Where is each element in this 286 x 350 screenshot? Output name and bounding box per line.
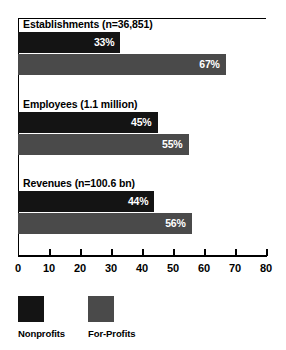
x-axis-tick	[173, 249, 175, 256]
chart-legend: NonprofitsFor-Profits	[18, 296, 268, 346]
bar-group-label: Revenues (n=100.6 bn)	[18, 177, 268, 190]
x-axis-tick-label: 80	[254, 261, 278, 275]
bar-value-label: 67%	[199, 59, 219, 70]
bar-value-label: 45%	[131, 117, 151, 128]
x-axis-tick-label: 0	[6, 261, 30, 275]
bar-row: 55%	[18, 134, 268, 155]
x-axis-tick-label: 70	[223, 261, 247, 275]
x-axis-tick	[204, 249, 206, 256]
bar-group-label: Employees (1.1 million)	[18, 98, 268, 111]
bar-for-profits: 56%	[18, 213, 192, 234]
bar-value-label: 33%	[94, 37, 114, 48]
x-axis-tick-label: 20	[68, 261, 92, 275]
bar-row: 44%	[18, 191, 268, 212]
bar-nonprofits: 45%	[18, 112, 158, 133]
bar-row: 45%	[18, 112, 268, 133]
legend-item: Nonprofits	[18, 296, 65, 339]
bar-row: 33%	[18, 32, 268, 53]
bar-group: Employees (1.1 million)45%55%	[18, 98, 268, 155]
x-axis-tick	[80, 249, 82, 256]
legend-label: For-Profits	[88, 328, 135, 339]
bar-nonprofits: 33%	[18, 32, 120, 53]
legend-swatch	[18, 296, 44, 322]
x-axis-tick	[49, 249, 51, 256]
legend-item: For-Profits	[88, 296, 135, 339]
x-axis-tick	[266, 249, 268, 256]
bar-nonprofits: 44%	[18, 191, 154, 212]
legend-label: Nonprofits	[18, 328, 65, 339]
bar-row: 67%	[18, 54, 268, 75]
x-axis-tick-label: 10	[37, 261, 61, 275]
legend-swatch	[88, 296, 114, 322]
x-axis-tick-label: 50	[161, 261, 185, 275]
bar-group-label: Establishments (n=36,851)	[18, 18, 268, 31]
bar-chart: Establishments (n=36,851)33%67%Employees…	[0, 0, 286, 350]
bar-group: Revenues (n=100.6 bn)44%56%	[18, 177, 268, 234]
bar-value-label: 44%	[128, 196, 148, 207]
bar-value-label: 55%	[162, 139, 182, 150]
bar-row: 56%	[18, 213, 268, 234]
x-axis-tick-label: 60	[192, 261, 216, 275]
bar-value-label: 56%	[165, 218, 185, 229]
x-axis-tick	[111, 249, 113, 256]
bar-for-profits: 67%	[18, 54, 226, 75]
x-axis-tick-label: 30	[99, 261, 123, 275]
bar-group: Establishments (n=36,851)33%67%	[18, 18, 268, 75]
x-axis-tick	[142, 249, 144, 256]
x-axis-tick	[235, 249, 237, 256]
x-axis-tick-label: 40	[130, 261, 154, 275]
bar-for-profits: 55%	[18, 134, 189, 155]
